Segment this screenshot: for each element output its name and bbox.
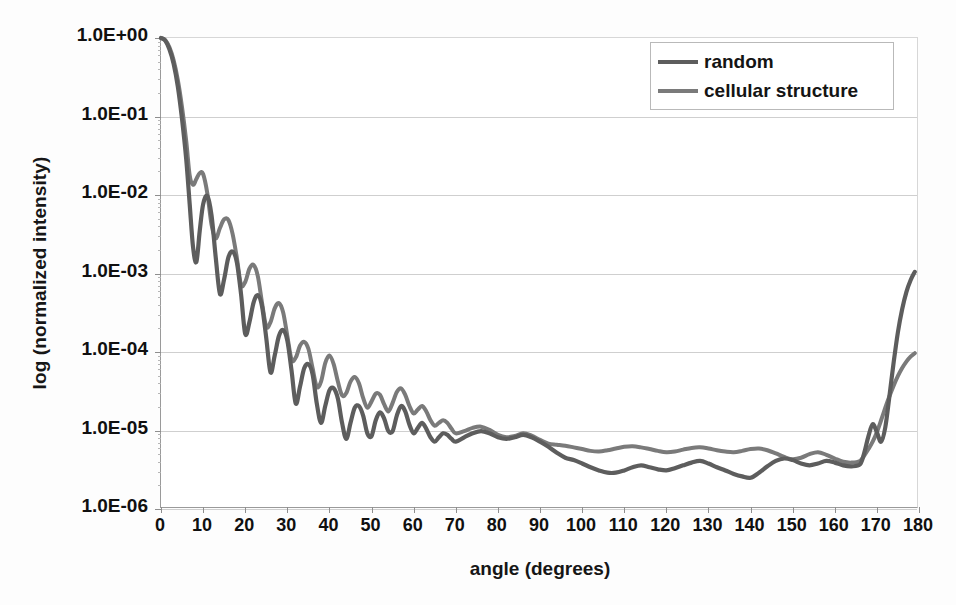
y-axis-tick-label: 1.0E-02 [28, 181, 148, 203]
y-axis-tick-label: 1.0E-04 [28, 338, 148, 360]
legend-item-random[interactable]: random [658, 47, 886, 76]
legend-swatch-random [658, 60, 698, 64]
legend-label-random: random [704, 52, 774, 71]
x-axis-tick-label: 180 [888, 515, 948, 536]
y-axis-tick-label: 1.0E-01 [28, 103, 148, 125]
legend-item-cellular-structure[interactable]: cellular structure [658, 76, 886, 105]
legend-label-cellular-structure: cellular structure [704, 81, 858, 100]
x-axis-tick [919, 507, 920, 513]
x-axis-title: angle (degrees) [160, 558, 920, 580]
chart-figure: log (normalized intensity) angle (degree… [0, 0, 956, 605]
y-axis-tick-label: 1.0E-06 [28, 495, 148, 517]
gridline [161, 509, 917, 510]
y-axis-tick-label: 1.0E-05 [28, 417, 148, 439]
y-axis-tick-label: 1.0E+00 [28, 24, 148, 46]
legend-swatch-cellular-structure [658, 89, 698, 93]
y-axis-tick-label: 1.0E-03 [28, 260, 148, 282]
legend: random cellular structure [650, 42, 894, 110]
